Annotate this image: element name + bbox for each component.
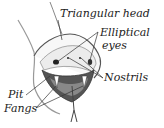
label-pit: Pit (8, 89, 23, 100)
label-fangs: Fangs (4, 103, 37, 114)
label-nostrils: Nostrils (104, 72, 148, 83)
label-triangular-head: Triangular head (60, 8, 150, 19)
snake-head-diagram: Triangular head Elliptical eyes Nostrils… (0, 0, 164, 128)
label-elliptical: Elliptical (100, 27, 150, 38)
label-eyes: eyes (102, 40, 127, 51)
